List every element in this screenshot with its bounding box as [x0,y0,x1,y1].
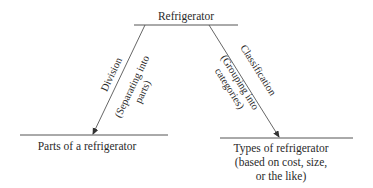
right-node-line3: or the like) [256,170,307,183]
right-node-line2: (based on cost, size, [235,156,327,169]
root-node-label: Refrigerator [158,10,214,23]
left-node-label: Parts of a refrigerator [38,140,137,153]
division-label: Division [99,55,125,93]
diagram-canvas: Refrigerator Division (Separating into p… [0,0,373,188]
right-node-line1: Types of refrigerator [234,142,329,155]
division-label-group: Division [99,55,125,93]
